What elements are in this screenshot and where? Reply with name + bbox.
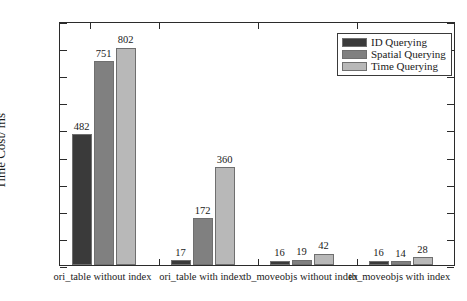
- x-axis-tick-top: [90, 23, 91, 29]
- bar-value-label: 28: [417, 245, 428, 256]
- bar: [292, 260, 312, 265]
- bar: [391, 261, 411, 265]
- bar-value-label: 42: [318, 241, 329, 252]
- bar-value-label: 19: [296, 247, 307, 258]
- legend: ID Querying Spatial Querying Time Queryi…: [337, 33, 452, 76]
- bar: [72, 134, 92, 265]
- y-axis-tick-right: [447, 186, 454, 187]
- x-axis-tick-top: [159, 23, 160, 29]
- bar-value-label: 172: [195, 206, 211, 217]
- legend-item: Time Querying: [342, 61, 446, 72]
- legend-swatch-time-querying: [342, 62, 367, 71]
- legend-item: ID Querying: [342, 37, 446, 48]
- bar-value-label: 14: [395, 249, 406, 260]
- y-axis-tick-right: [447, 131, 454, 132]
- bar: [116, 48, 136, 265]
- x-axis-tick: [258, 259, 259, 265]
- y-axis-tick: [60, 77, 67, 78]
- legend-label: Spatial Querying: [371, 49, 446, 60]
- x-axis-group-label: tb_moveobjs with index: [349, 271, 451, 282]
- x-axis-group-label: ori_table without index: [54, 271, 152, 282]
- x-axis-tick-top: [357, 23, 358, 29]
- y-axis-title: Time Cost/ ms: [0, 66, 9, 236]
- bar: [369, 261, 389, 265]
- bar: [193, 218, 213, 265]
- y-axis-tick-right: [447, 104, 454, 105]
- y-axis-tick: [60, 50, 67, 51]
- bar-chart: Time Cost/ ms 01002003004005006007008009…: [0, 0, 467, 301]
- y-axis-tick-right: [447, 213, 454, 214]
- legend-label: ID Querying: [371, 37, 427, 48]
- y-axis-tick-right: [447, 240, 454, 241]
- y-axis-tick: [60, 131, 67, 132]
- bar: [413, 257, 433, 265]
- x-axis-group-label: ori_table with index: [159, 271, 244, 282]
- legend-label: Time Querying: [371, 61, 438, 72]
- x-axis-tick: [357, 259, 358, 265]
- bar: [94, 61, 114, 265]
- bar-value-label: 360: [217, 155, 233, 166]
- y-axis-tick: [60, 104, 67, 105]
- bar: [314, 254, 334, 265]
- x-axis-tick-top: [258, 23, 259, 29]
- legend-swatch-spatial-querying: [342, 50, 367, 59]
- y-axis-tick-right: [447, 77, 454, 78]
- y-axis-tick-right: [447, 23, 454, 24]
- y-axis-tick: [60, 267, 67, 268]
- bar-value-label: 16: [274, 248, 285, 259]
- y-axis-tick: [60, 159, 67, 160]
- y-axis-tick: [60, 240, 67, 241]
- y-axis-tick-right: [447, 267, 454, 268]
- bar-value-label: 17: [175, 248, 186, 259]
- legend-swatch-id-querying: [342, 38, 367, 47]
- bar: [270, 261, 290, 265]
- y-axis-tick-right: [447, 159, 454, 160]
- y-axis-tick: [60, 23, 67, 24]
- x-axis-group-label: tb_moveobjs without index: [243, 271, 358, 282]
- legend-item: Spatial Querying: [342, 49, 446, 60]
- y-axis-tick: [60, 213, 67, 214]
- bar-value-label: 482: [74, 122, 90, 133]
- bar: [215, 167, 235, 265]
- y-axis-tick: [60, 186, 67, 187]
- bar-value-label: 751: [96, 49, 112, 60]
- x-axis-tick: [159, 259, 160, 265]
- bar-value-label: 16: [373, 248, 384, 259]
- bar: [171, 260, 191, 265]
- bar-value-label: 802: [118, 35, 134, 46]
